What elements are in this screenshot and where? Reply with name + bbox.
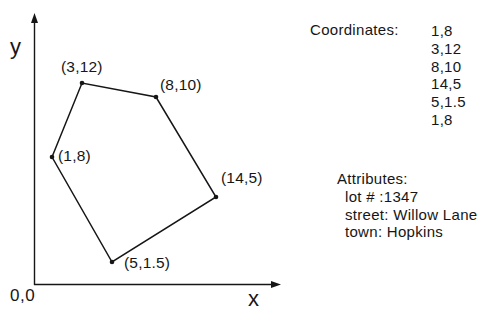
- polygon-vertex-dots: [50, 81, 219, 265]
- vertex-label-5-1point5: (5,1.5): [124, 255, 170, 271]
- y-axis-label: y: [10, 36, 22, 58]
- coordinate-item: 1,8: [431, 111, 466, 129]
- vertex-dot: [110, 260, 115, 265]
- parcel-polygon-outline: [52, 83, 216, 262]
- coordinate-item: 1,8: [431, 22, 466, 40]
- attributes-heading: Attributes:: [337, 170, 477, 188]
- vertex-dot: [80, 81, 85, 86]
- attribute-item-lot: lot # :1347: [337, 188, 477, 206]
- vector-polygon-figure: y x 0,0 (3,12) (8,10) (1,8) (14,5) (5,1.…: [0, 0, 499, 321]
- vertex-label-14-5: (14,5): [221, 170, 263, 186]
- coordinate-item: 8,10: [431, 58, 466, 76]
- vertex-label-8-10: (8,10): [160, 77, 202, 93]
- y-axis: [31, 13, 38, 285]
- coordinate-item: 5,1.5: [431, 93, 466, 111]
- vertex-dot: [214, 195, 219, 200]
- attribute-item-street: street: Willow Lane: [337, 206, 477, 224]
- coordinate-item: 3,12: [431, 40, 466, 58]
- vertex-label-1-8: (1,8): [58, 148, 91, 164]
- coordinates-list: 1,8 3,12 8,10 14,5 5,1.5 1,8: [431, 22, 466, 129]
- x-axis-label: x: [248, 288, 260, 310]
- coordinates-heading: Coordinates:: [310, 22, 399, 37]
- attribute-item-town: town: Hopkins: [337, 223, 477, 241]
- coordinate-item: 14,5: [431, 75, 466, 93]
- attributes-list: Attributes: lot # :1347 street: Willow L…: [337, 170, 477, 241]
- origin-label: 0,0: [10, 287, 35, 304]
- x-axis: [34, 281, 281, 288]
- vertex-dot: [50, 155, 55, 160]
- vertex-dot: [154, 95, 159, 100]
- vertex-label-3-12: (3,12): [61, 59, 103, 75]
